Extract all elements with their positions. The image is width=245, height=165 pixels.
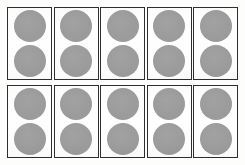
card <box>147 7 192 80</box>
circle-shape <box>200 10 232 42</box>
circle-shape <box>60 10 92 42</box>
card <box>147 85 192 158</box>
circle-shape <box>200 123 232 155</box>
card <box>54 85 99 158</box>
card <box>7 85 52 158</box>
circle-shape <box>60 123 92 155</box>
circle-shape <box>107 10 139 42</box>
circle-shape <box>153 45 185 77</box>
circle-shape <box>107 88 139 120</box>
figure-root <box>0 0 245 165</box>
circle-shape <box>153 88 185 120</box>
circle-shape <box>60 45 92 77</box>
circle-shape <box>107 123 139 155</box>
circle-shape <box>14 10 46 42</box>
card <box>100 7 145 80</box>
circle-shape <box>153 123 185 155</box>
card <box>7 7 52 80</box>
circle-shape <box>14 88 46 120</box>
card <box>193 85 238 158</box>
circle-shape <box>107 45 139 77</box>
circle-shape <box>200 88 232 120</box>
circle-shape <box>153 10 185 42</box>
card <box>193 7 238 80</box>
circle-shape <box>14 45 46 77</box>
card <box>54 7 99 80</box>
circle-shape <box>60 88 92 120</box>
card-grid <box>7 7 238 158</box>
card <box>100 85 145 158</box>
circle-shape <box>14 123 46 155</box>
circle-shape <box>200 45 232 77</box>
